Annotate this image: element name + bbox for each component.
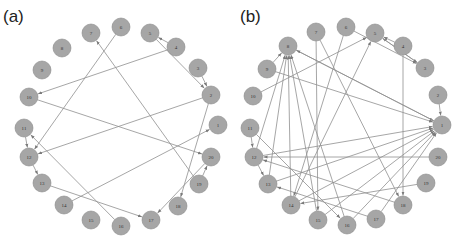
edge-9-to-8 [273, 53, 282, 62]
node-3: 3 [416, 59, 434, 77]
node-6: 6 [112, 18, 130, 36]
edge-11-to-12 [251, 137, 253, 148]
node-label: 18 [176, 204, 182, 209]
node-8: 8 [279, 37, 297, 55]
node-9: 9 [33, 61, 51, 79]
node-4: 4 [167, 38, 185, 56]
edge-12-to-1 [263, 127, 433, 156]
edge-19-to-20 [203, 166, 207, 176]
panel-a-nodes: 1234567891011121314151617181920 [15, 18, 227, 235]
edge-4-to-10 [38, 50, 168, 94]
node-13: 13 [259, 175, 277, 193]
node-label: 11 [248, 126, 253, 131]
edge-12-to-13 [33, 165, 38, 175]
node-17: 17 [142, 211, 160, 229]
node-3: 3 [189, 59, 207, 77]
edge-4-to-5 [384, 37, 395, 42]
edge-19-to-7 [97, 41, 194, 177]
panel-b: (b) 1234567891011121314151617181920 [240, 7, 451, 234]
node-19: 19 [417, 174, 435, 192]
node-1: 1 [209, 116, 227, 134]
node-16: 16 [112, 217, 130, 235]
node-5: 5 [141, 24, 159, 42]
edge-4-to-5 [158, 38, 168, 43]
node-20: 20 [429, 148, 447, 166]
node-label: 18 [401, 203, 407, 208]
node-14: 14 [55, 196, 73, 214]
edge-11-to-12 [26, 137, 28, 148]
panel-b-nodes: 1234567891011121314151617181920 [241, 18, 451, 234]
panel-a: (a) 1234567891011121314151617181920 [3, 7, 227, 235]
panel-a-edges [26, 34, 210, 219]
node-11: 11 [15, 119, 33, 137]
node-label: 12 [252, 155, 258, 160]
node-label: 17 [374, 217, 380, 222]
node-7: 7 [307, 23, 325, 41]
edge-2-to-1 [439, 104, 441, 116]
node-1: 1 [433, 116, 451, 134]
node-10: 10 [20, 88, 38, 106]
edge-12-to-13 [258, 165, 264, 176]
node-label: 10 [27, 95, 33, 100]
node-18: 18 [394, 196, 412, 214]
edge-3-to-2 [202, 76, 207, 86]
node-label: 11 [22, 126, 27, 131]
node-label: 19 [197, 182, 203, 187]
node-20: 20 [202, 148, 220, 166]
edge-15-to-1 [325, 131, 434, 215]
node-4: 4 [394, 37, 412, 55]
node-12: 12 [245, 148, 263, 166]
node-5: 5 [366, 24, 384, 42]
edge-15-to-8 [290, 55, 317, 211]
node-9: 9 [258, 60, 276, 78]
node-label: 14 [289, 203, 295, 208]
node-10: 10 [244, 87, 262, 105]
node-12: 12 [20, 148, 38, 166]
node-16: 16 [338, 216, 356, 234]
node-13: 13 [33, 174, 51, 192]
edge-13-to-1 [277, 128, 434, 181]
node-7: 7 [82, 24, 100, 42]
node-15: 15 [82, 211, 100, 229]
panel-a-label: (a) [3, 7, 24, 26]
panel-b-label: (b) [240, 7, 261, 26]
node-label: 15 [89, 218, 95, 223]
node-label: 16 [119, 224, 125, 229]
node-label: 15 [316, 218, 322, 223]
node-label: 17 [149, 218, 155, 223]
node-11: 11 [241, 119, 259, 137]
edge-7-to-18 [320, 40, 399, 197]
node-label: 20 [436, 155, 442, 160]
node-label: 20 [209, 155, 215, 160]
node-label: 12 [27, 155, 33, 160]
node-19: 19 [190, 175, 208, 193]
node-label: 19 [424, 181, 430, 186]
node-6: 6 [337, 18, 355, 36]
node-label: 13 [40, 181, 46, 186]
node-label: 16 [345, 223, 351, 228]
edge-7-to-15 [316, 41, 318, 211]
node-15: 15 [309, 211, 327, 229]
node-label: 13 [266, 182, 272, 187]
network-figure: (a) 1234567891011121314151617181920 (b) … [0, 0, 464, 245]
node-label: 14 [62, 203, 68, 208]
edge-14-to-1 [72, 129, 210, 201]
panel-b-edges [251, 31, 441, 218]
node-18: 18 [169, 197, 187, 215]
node-label: 10 [251, 94, 257, 99]
node-2: 2 [429, 86, 447, 104]
node-2: 2 [202, 86, 220, 104]
node-14: 14 [282, 196, 300, 214]
node-17: 17 [367, 210, 385, 228]
node-8: 8 [53, 39, 71, 57]
